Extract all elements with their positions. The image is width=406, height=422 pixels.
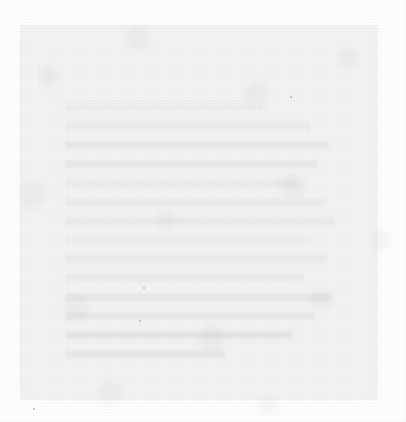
ghost-text-line xyxy=(65,350,226,358)
ghost-text-line xyxy=(65,236,312,244)
ghost-text-line xyxy=(65,198,324,206)
ghost-text-line xyxy=(65,274,304,282)
ghost-text-line xyxy=(65,179,299,187)
scan-speck xyxy=(290,96,292,98)
ghost-text-line xyxy=(65,293,332,301)
ghost-text-line xyxy=(65,122,310,130)
scanned-document-page xyxy=(0,0,406,422)
ghost-text-line xyxy=(65,160,318,168)
ghost-text-line xyxy=(65,255,326,263)
scan-speck xyxy=(139,320,141,322)
scan-speck xyxy=(143,287,145,289)
ghost-text-line xyxy=(65,141,329,149)
ghost-text-line xyxy=(65,312,315,320)
ghost-text-line xyxy=(65,331,293,339)
ghost-text-line xyxy=(65,217,335,225)
scan-speck xyxy=(33,408,35,410)
ghost-text-line xyxy=(65,103,265,111)
ghost-text-column xyxy=(65,103,343,369)
